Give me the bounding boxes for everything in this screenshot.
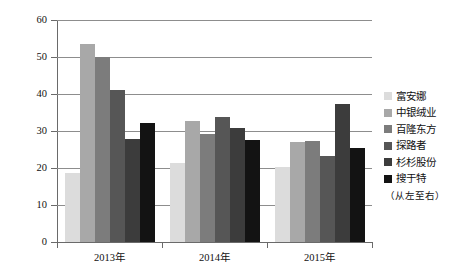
y-axis-tick-label: 40 (18, 89, 47, 100)
legend-item: 搜于特 (384, 171, 464, 188)
legend-item: 探路者 (384, 138, 464, 155)
bar (110, 90, 125, 242)
chart-legend: 富安娜中银绒业百隆东方探路者杉杉股份搜于特 （从左至右） (384, 88, 464, 202)
legend-item-label: 探路者 (396, 140, 426, 151)
legend-swatch-icon (384, 142, 392, 150)
legend-swatch-icon (384, 125, 392, 133)
gridline (57, 242, 372, 243)
legend-item-label: 百隆东方 (396, 124, 436, 135)
y-axis-tick-label: 20 (18, 163, 47, 174)
bar (95, 57, 110, 242)
x-axis-tick (57, 242, 58, 248)
x-axis-tick (372, 242, 373, 248)
bar (170, 163, 185, 242)
legend-swatch-icon (384, 92, 392, 100)
legend-item-label: 杉杉股份 (396, 157, 436, 168)
bar (215, 117, 230, 242)
y-axis-tick-label: 50 (18, 52, 47, 63)
bar (185, 121, 200, 242)
bar (200, 134, 215, 242)
bar (290, 142, 305, 242)
bar (140, 123, 155, 242)
bar (305, 141, 320, 242)
legend-item-label: 中银绒业 (396, 107, 436, 118)
x-axis-tick-label: 2014年 (162, 252, 267, 264)
bar (125, 139, 140, 242)
bar-chart: 0102030405060 2013年2014年2015年 富安娜中银绒业百隆东… (0, 0, 465, 280)
y-axis-tick-label: 10 (18, 200, 47, 211)
x-axis-tick (162, 242, 163, 248)
legend-item: 百隆东方 (384, 121, 464, 138)
legend-item-label: 富安娜 (396, 91, 426, 102)
y-axis-tick-label: 60 (18, 15, 47, 26)
legend-swatch-icon (384, 158, 392, 166)
y-axis-tick-label: 30 (18, 126, 47, 137)
x-axis-tick-label: 2015年 (267, 252, 372, 264)
legend-item-label: 搜于特 (396, 173, 426, 184)
y-axis-tick-label: 0 (18, 237, 47, 248)
bar (245, 140, 260, 242)
bar (320, 156, 335, 242)
legend-item: 富安娜 (384, 88, 464, 105)
bar (335, 104, 350, 242)
bar (65, 173, 80, 242)
legend-swatch-icon (384, 175, 392, 183)
legend-item: 杉杉股份 (384, 154, 464, 171)
bar (275, 167, 290, 242)
bar (80, 44, 95, 242)
legend-item: 中银绒业 (384, 105, 464, 122)
bar (350, 148, 365, 242)
x-axis-tick-label: 2013年 (57, 252, 162, 264)
legend-note: （从左至右） (384, 191, 464, 202)
bar (230, 128, 245, 242)
plot-area (57, 20, 372, 242)
legend-swatch-icon (384, 109, 392, 117)
x-axis-tick (267, 242, 268, 248)
